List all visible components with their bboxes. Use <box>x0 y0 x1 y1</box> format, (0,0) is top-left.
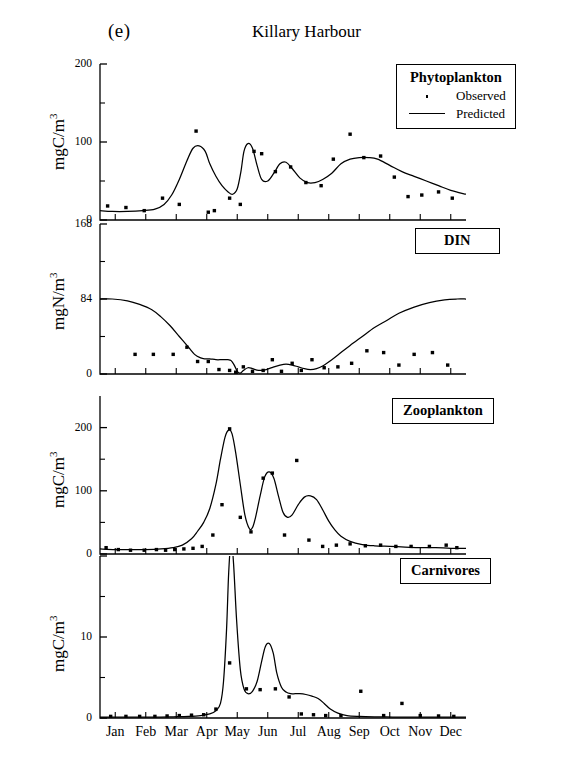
data-point <box>220 503 223 506</box>
y-axis-title-text: mgC/m <box>49 457 68 508</box>
data-point <box>382 714 385 717</box>
axis-spine <box>100 224 466 374</box>
legend-title: Phytoplankton <box>406 69 506 86</box>
data-point <box>173 548 176 551</box>
data-point <box>280 370 283 373</box>
y-axis-title-din: mgN/m3 <box>48 273 67 330</box>
data-point <box>104 546 107 549</box>
y-axis-title-exponent: 3 <box>47 615 59 621</box>
data-point <box>239 516 242 519</box>
data-point <box>261 369 264 372</box>
data-point <box>245 687 248 690</box>
y-tick-label-zooplankton: 200 <box>48 422 92 434</box>
data-point <box>271 358 274 361</box>
data-point <box>348 133 351 136</box>
series-predicted-line <box>100 299 466 373</box>
data-point <box>289 165 292 168</box>
data-point <box>207 211 210 214</box>
line-marker-icon <box>406 113 448 114</box>
data-point <box>455 546 458 549</box>
data-point <box>322 366 325 369</box>
chart-panel-din <box>100 224 466 374</box>
y-axis-title-exponent: 3 <box>47 113 59 119</box>
figure-killary-harbour: (e) Killary Harbour 0100200mgC/m3084168m… <box>0 0 573 769</box>
data-point <box>234 371 237 374</box>
data-point <box>143 209 146 212</box>
data-point <box>339 714 342 717</box>
plot-area-din <box>100 224 466 374</box>
data-point <box>202 713 205 716</box>
data-point <box>287 695 290 698</box>
data-point <box>251 370 254 373</box>
data-point <box>290 362 293 365</box>
data-point <box>124 715 127 718</box>
data-point <box>252 150 255 153</box>
legend-label-predicted: Predicted <box>448 106 505 122</box>
data-point <box>444 543 447 546</box>
data-point <box>178 714 181 717</box>
data-point <box>190 713 193 716</box>
data-point <box>152 353 155 356</box>
data-point <box>304 181 307 184</box>
data-point <box>242 365 245 368</box>
dot-marker-icon <box>406 95 448 98</box>
data-point <box>211 533 214 536</box>
y-axis-title-text: mgN/m <box>49 278 68 330</box>
data-point <box>153 715 156 718</box>
series-observed-points <box>104 427 458 552</box>
data-point <box>117 548 120 551</box>
legend-phytoplankton: Phytoplankton Observed Predicted <box>396 64 516 129</box>
y-tick-label-zooplankton: 0 <box>48 548 92 560</box>
data-point <box>300 369 303 372</box>
series-predicted-line <box>100 430 466 550</box>
data-point <box>196 360 199 363</box>
x-tick-label-dec: Dec <box>431 725 471 739</box>
data-point <box>419 714 422 717</box>
data-point <box>336 365 339 368</box>
data-point <box>261 476 264 479</box>
data-point <box>420 193 423 196</box>
data-point <box>283 533 286 536</box>
data-point <box>217 368 220 371</box>
data-point <box>335 543 338 546</box>
series-predicted-line <box>100 143 466 211</box>
data-point <box>394 545 397 548</box>
data-point <box>228 196 231 199</box>
data-point <box>271 471 274 474</box>
data-point <box>213 209 216 212</box>
y-axis-title-text: mgC/m <box>49 621 68 672</box>
data-point <box>310 358 313 361</box>
data-point <box>161 196 164 199</box>
legend-row-predicted: Predicted <box>406 106 506 122</box>
data-point <box>258 688 261 691</box>
data-point <box>300 712 303 715</box>
data-point <box>393 175 396 178</box>
data-point <box>228 661 231 664</box>
data-point <box>178 203 181 206</box>
data-point <box>364 544 367 547</box>
data-point <box>406 195 409 198</box>
data-point <box>431 351 434 354</box>
data-point <box>106 204 109 207</box>
data-point <box>172 353 175 356</box>
data-point <box>194 129 197 132</box>
y-axis-title-zooplankton: mgC/m3 <box>48 451 67 508</box>
data-point <box>446 363 449 366</box>
data-point <box>312 713 315 716</box>
data-point <box>129 549 132 552</box>
data-point <box>319 184 322 187</box>
data-point <box>400 702 403 705</box>
y-tick-label-carnivores: 0 <box>48 712 92 724</box>
panel-label-zooplankton: Zooplankton <box>392 398 494 424</box>
data-point <box>164 549 167 552</box>
data-point <box>321 545 324 548</box>
series-observed-points <box>109 661 456 718</box>
y-axis-title-carnivores: mgC/m3 <box>48 615 67 672</box>
y-axis-title-exponent: 3 <box>47 273 59 279</box>
y-axis-title-phytoplankton: mgC/m3 <box>48 113 67 170</box>
data-point <box>365 349 368 352</box>
data-point <box>191 547 194 550</box>
y-tick-label-din: 168 <box>48 218 92 230</box>
y-axis-title-exponent: 3 <box>47 451 59 457</box>
data-point <box>239 203 242 206</box>
